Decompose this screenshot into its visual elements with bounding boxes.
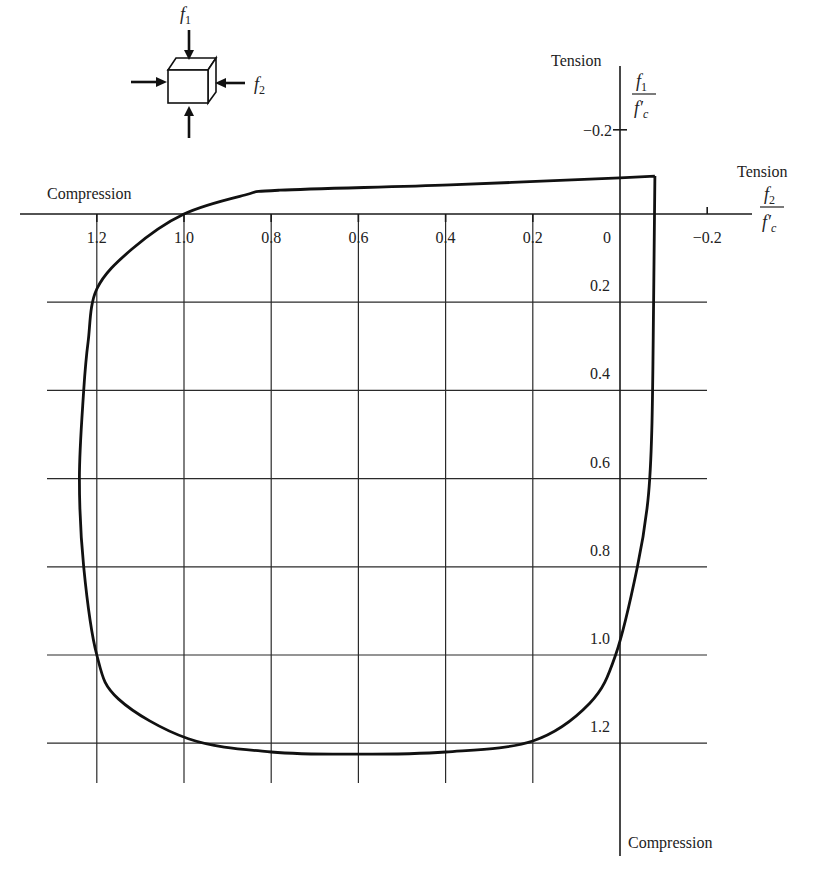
x-tick-label: 0.2 xyxy=(523,229,543,246)
y-tick-label: 0.8 xyxy=(590,542,610,559)
svg-text:f′c: f′c xyxy=(762,212,777,235)
svg-text:f1: f1 xyxy=(636,71,647,94)
x-tick-label: 1.2 xyxy=(87,229,107,246)
svg-text:f1: f1 xyxy=(180,4,191,27)
tension-top-label: Tension xyxy=(551,52,601,69)
y-tick-label: 1.0 xyxy=(590,630,610,647)
x-tick-label: 1.0 xyxy=(174,229,194,246)
y-tick-label: 0.2 xyxy=(590,277,610,294)
x-tick-label: 0.8 xyxy=(261,229,281,246)
x-tick-label: −0.2 xyxy=(693,229,722,246)
x-tick-label: 0.4 xyxy=(436,229,456,246)
x-axis-label: f2 f′c xyxy=(760,184,784,235)
y-tick-label: 0.6 xyxy=(590,454,610,471)
y-tick-label: 0.4 xyxy=(590,365,610,382)
tension-right-label: Tension xyxy=(737,163,787,180)
compression-left-label: Compression xyxy=(47,185,131,203)
y-tick-label: −0.2 xyxy=(583,122,612,139)
x-tick-label: 0.6 xyxy=(348,229,368,246)
grid-lines xyxy=(47,214,707,783)
svg-text:f2: f2 xyxy=(764,184,775,207)
failure-envelope-curve xyxy=(79,176,655,754)
biaxial-strength-chart: 1.21.00.80.60.40.20−0.2−0.20.20.40.60.81… xyxy=(0,0,816,879)
y-axis-label: f1 f′c xyxy=(632,71,656,121)
y-tick-label: 1.2 xyxy=(590,718,610,735)
x-tick-label: 0 xyxy=(603,229,611,246)
svg-text:f2: f2 xyxy=(254,74,265,97)
compression-bottom-label: Compression xyxy=(628,834,712,852)
svg-text:f′c: f′c xyxy=(634,98,649,121)
stress-cube-icon: f1 f2 xyxy=(131,4,265,138)
